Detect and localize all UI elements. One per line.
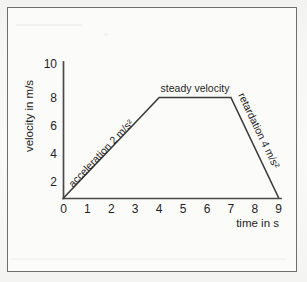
x-tick-label-0: 0	[60, 202, 67, 216]
chart-plot-area: 10 8 6 4 2 0 1 2 3 4 5 6 7 8 9 velocity …	[0, 0, 307, 282]
velocity-time-graph-figure: 10 8 6 4 2 0 1 2 3 4 5 6 7 8 9 velocity …	[0, 0, 307, 282]
x-tick-label-8: 8	[251, 202, 258, 216]
y-axis-title: velocity in m/s	[23, 80, 35, 152]
x-axis-title: time in s	[236, 217, 279, 229]
x-tick-label-9: 9	[275, 202, 282, 216]
x-tick-label-6: 6	[204, 202, 211, 216]
x-tick-label-3: 3	[132, 202, 139, 216]
annotation-acceleration: acceleration 2 m/s²	[66, 116, 136, 189]
y-tick-label-2: 2	[50, 175, 57, 189]
y-tick-label-4: 4	[50, 147, 57, 161]
x-tick-label-5: 5	[180, 202, 187, 216]
x-tick-label-4: 4	[156, 202, 163, 216]
annotation-steady-velocity: steady velocity	[161, 82, 231, 94]
x-tick-label-1: 1	[84, 202, 91, 216]
y-tick-label-6: 6	[50, 119, 57, 133]
y-tick-label-8: 8	[50, 91, 57, 105]
x-tick-label-2: 2	[108, 202, 115, 216]
x-tick-label-7: 7	[228, 202, 235, 216]
y-tick-label-10: 10	[44, 57, 58, 71]
